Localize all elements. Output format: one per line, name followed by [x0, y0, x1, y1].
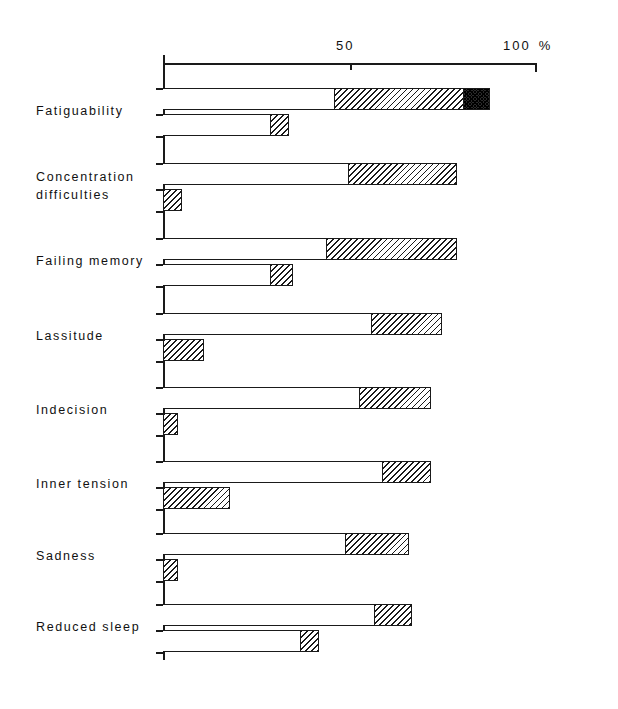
y-axis-tick [156, 361, 164, 363]
bar-segment-hatched [163, 340, 203, 360]
bar-segment-dark [463, 89, 489, 109]
y-axis-tick [156, 211, 164, 213]
bar-segment-white [163, 115, 270, 135]
bar-upper [163, 313, 442, 335]
category-label-line: Fatiguability [36, 102, 124, 120]
bar-segment-hatched [270, 265, 292, 285]
category-label-line: Inner tension [36, 475, 129, 493]
bar-segment-white [163, 534, 345, 554]
y-axis-tick [156, 435, 164, 437]
x-axis-ticklabel-100: 100% [503, 38, 552, 53]
category-label-line: Lassitude [36, 327, 104, 345]
bar-lower [163, 630, 319, 652]
bar-segment-white [163, 314, 371, 334]
bar-segment-hatched [348, 164, 456, 184]
bar-upper [163, 604, 412, 626]
bar-segment-white [163, 631, 300, 651]
category-label-line: Concentration [36, 168, 135, 186]
bar-segment-hatched [345, 534, 408, 554]
y-axis-tick [156, 286, 164, 288]
x-axis-unit-label: % [539, 38, 553, 53]
category-label-line: Indecision [36, 401, 108, 419]
bar-segment-white [163, 239, 326, 259]
y-axis-tick [156, 509, 164, 511]
bar-lower [163, 487, 230, 509]
category-label-line: Failing memory [36, 252, 144, 270]
bar-segment-hatched [382, 462, 430, 482]
bar-upper [163, 238, 457, 260]
category-label: Inner tension [36, 475, 129, 493]
category-label-line: difficulties [36, 186, 135, 204]
bar-lower [163, 413, 178, 435]
bar-segment-white [163, 164, 348, 184]
y-axis-tick [156, 652, 164, 654]
horizontal-stacked-bar-chart: 50 100% FatiguabilityConcentrationdiffic… [0, 0, 618, 709]
bar-upper [163, 163, 457, 185]
bar-segment-white [163, 605, 374, 625]
category-label: Failing memory [36, 252, 144, 270]
x-axis-ticklabel-50: 50 [336, 38, 354, 53]
x-axis-ticklabel-100-value: 100 [503, 38, 531, 53]
bar-lower [163, 114, 289, 136]
category-label: Indecision [36, 401, 108, 419]
category-label: Lassitude [36, 327, 104, 345]
category-label: Concentrationdifficulties [36, 168, 135, 204]
bar-lower [163, 339, 204, 361]
category-label: Fatiguability [36, 102, 124, 120]
bar-lower [163, 189, 182, 211]
y-axis-tick [156, 136, 164, 138]
bar-upper [163, 387, 431, 409]
bar-upper [163, 461, 431, 483]
bar-segment-hatched [300, 631, 318, 651]
bar-segment-hatched [334, 89, 464, 109]
category-label-line: Reduced sleep [36, 618, 140, 636]
bar-upper [163, 533, 409, 555]
bar-segment-white [163, 89, 334, 109]
bar-lower [163, 264, 293, 286]
bar-segment-hatched [374, 605, 411, 625]
bar-lower [163, 559, 178, 581]
bar-segment-hatched [163, 560, 177, 580]
category-label-line: Sadness [36, 547, 96, 565]
bar-segment-white [163, 462, 382, 482]
bar-segment-hatched [371, 314, 441, 334]
bar-segment-hatched [163, 488, 229, 508]
bar-segment-hatched [163, 190, 181, 210]
bar-upper [163, 88, 490, 110]
x-axis-tick-50 [350, 63, 352, 70]
bar-segment-hatched [270, 115, 288, 135]
category-label: Sadness [36, 547, 96, 565]
bar-segment-hatched [326, 239, 456, 259]
category-label: Reduced sleep [36, 618, 140, 636]
y-axis-tick [156, 581, 164, 583]
bar-segment-white [163, 388, 359, 408]
bar-segment-white [163, 265, 270, 285]
x-axis-right-cap [535, 63, 537, 72]
bar-segment-hatched [163, 414, 177, 434]
bar-segment-hatched [359, 388, 429, 408]
